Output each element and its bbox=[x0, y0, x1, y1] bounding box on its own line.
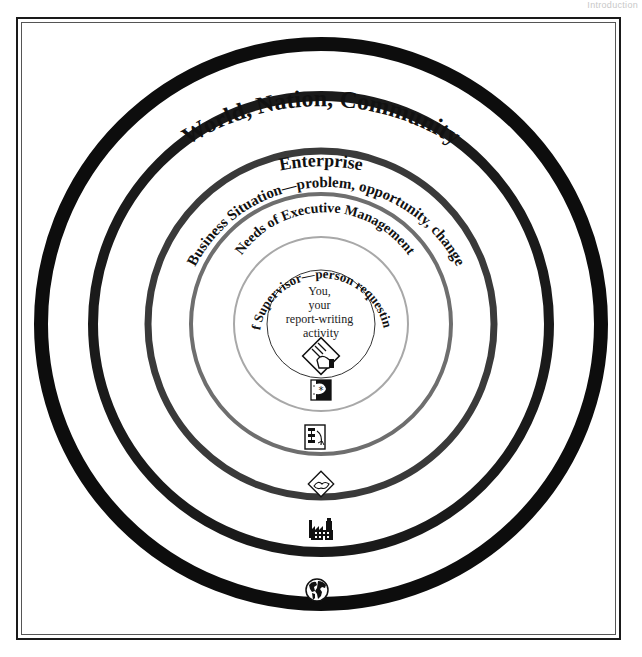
concentric-context-diagram: World, Nation, Community Enterprise Busi… bbox=[0, 0, 642, 657]
center-label: You, your report-writing activity bbox=[286, 284, 356, 340]
globe-icon bbox=[306, 579, 328, 601]
center-label-line: your bbox=[309, 298, 331, 312]
organization-chart-document-icon bbox=[305, 425, 325, 449]
svg-text:*: * bbox=[319, 385, 324, 396]
idea-book-icon: * bbox=[311, 380, 331, 400]
hand-writing-document-icon bbox=[303, 338, 340, 375]
factory-icon bbox=[309, 518, 333, 540]
ring-label-enterprise-text: Enterprise bbox=[277, 150, 364, 174]
center-label-line: report-writing bbox=[286, 312, 353, 326]
ring-label-world: World, Nation, Community bbox=[177, 85, 465, 149]
center-label-line: You, bbox=[308, 284, 330, 298]
ring-label-enterprise: Enterprise bbox=[277, 150, 364, 174]
ring-label-world-text: World, Nation, Community bbox=[177, 85, 465, 149]
handshake-document-icon bbox=[308, 471, 333, 496]
